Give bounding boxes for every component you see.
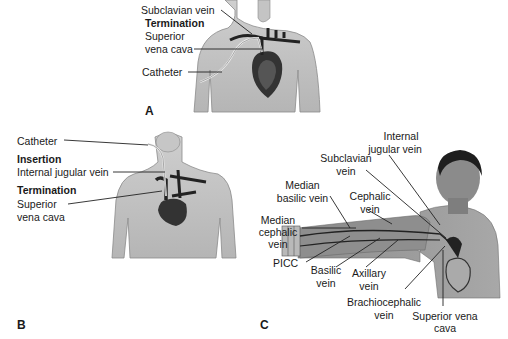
label-subclavian-1: Subclavian	[316, 152, 376, 164]
label-median-basilic-1: Median	[270, 179, 335, 191]
label-cephalic-2: vein	[345, 203, 395, 215]
label-median-cephalic-1: Median	[253, 214, 303, 226]
label-internal-jugular-1: Internal	[366, 130, 436, 142]
label-insertion-heading: Insertion	[17, 153, 61, 165]
label-basilic-1: Basilic	[306, 264, 346, 276]
label-axillary-2: vein	[347, 280, 391, 292]
label-termination-heading: Termination	[17, 184, 76, 196]
label-subclavian-2: vein	[316, 165, 376, 177]
panel-letter-a: A	[145, 104, 154, 118]
panel-a-torso	[194, 0, 320, 112]
panel-letter-b: B	[17, 318, 26, 332]
label-svc-2: cava	[410, 322, 480, 334]
label-basilic-2: vein	[306, 277, 346, 289]
label-catheter: Catheter	[142, 66, 182, 78]
label-svc-1: Superior vena	[410, 310, 480, 322]
label-termination-heading: Termination	[145, 17, 204, 29]
label-vena-cava: vena cava	[17, 211, 65, 223]
label-axillary-1: Axillary	[347, 267, 391, 279]
label-subclavian-vein: Subclavian vein	[141, 4, 215, 16]
label-catheter: Catheter	[17, 135, 57, 147]
label-superior: Superior	[17, 198, 57, 210]
label-cephalic-1: Cephalic	[345, 190, 395, 202]
label-picc: PICC	[273, 257, 298, 269]
label-internal-jugular-vein: Internal jugular vein	[17, 166, 109, 178]
panel-letter-c: C	[260, 318, 269, 332]
label-brachiocephalic-1: Brachiocephalic	[344, 296, 424, 308]
label-median-cephalic-2: cephalic	[253, 226, 303, 238]
label-median-basilic-2: basilic vein	[270, 192, 335, 204]
label-vena-cava: vena cava	[145, 43, 193, 55]
label-superior: Superior	[145, 30, 185, 42]
label-median-cephalic-3: vein	[253, 238, 303, 250]
